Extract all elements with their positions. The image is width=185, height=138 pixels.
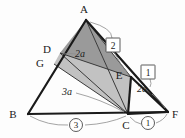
leader-circle1-arc-left	[130, 117, 141, 124]
vertex-label-A: A	[80, 3, 88, 15]
segment-label-2a-upper: 2a	[75, 48, 85, 59]
segment-label-2a-lower: 2a	[137, 83, 147, 94]
leader-box1-to-ef	[150, 79, 151, 87]
vertex-label-E: E	[116, 69, 123, 81]
vertex-label-D: D	[43, 43, 51, 55]
circled-callout-1[interactable]: 1	[142, 117, 155, 130]
circle-label-1: 1	[146, 118, 151, 128]
circled-callout-3[interactable]: 3	[70, 119, 83, 132]
vertex-label-C: C	[122, 119, 129, 131]
geometry-canvas: 2 1 3 1 2a 3a 2a A B C D E F G	[0, 0, 185, 138]
vertex-label-G: G	[36, 57, 44, 69]
boxed-callout-1[interactable]: 1	[141, 65, 155, 79]
vertex-label-B: B	[9, 108, 16, 120]
segment-label-3a: 3a	[61, 86, 72, 97]
vertex-label-F: F	[172, 108, 178, 120]
leader-circle3-arc-right	[85, 116, 126, 125]
leader-circle3-arc-left	[30, 116, 68, 125]
box-label-1: 1	[146, 68, 151, 78]
geometry-figure: 2 1 3 1 2a 3a 2a A B C D E F G	[0, 0, 185, 138]
leader-circle1-arc-right	[156, 114, 167, 123]
circle-label-3: 3	[74, 120, 79, 130]
boxed-callout-2[interactable]: 2	[106, 38, 120, 52]
box-label-2: 2	[111, 41, 116, 51]
